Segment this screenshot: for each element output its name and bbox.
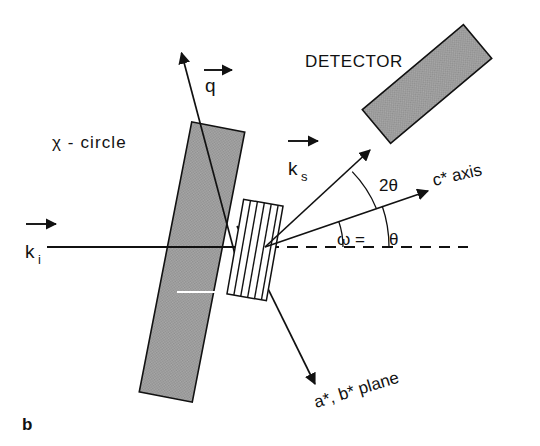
k-i-subscript: i (38, 252, 41, 267)
theta-label: θ (389, 230, 398, 249)
ab-plane-label: a*, b* plane (312, 368, 402, 412)
chi-circle-label: χ - circle (52, 133, 127, 152)
theta-angle-arc (382, 206, 389, 247)
chi-circle-bar-shape (139, 122, 244, 402)
detector-bar-shape (362, 25, 491, 144)
omega-label: ω = (337, 230, 365, 249)
scattering-geometry-diagram: DETECTOR χ - circle k i k s q 2θ ω = θ c… (0, 0, 540, 446)
chi-circle-bar (139, 122, 244, 402)
k-i-label: k (25, 241, 35, 262)
q-label: q (205, 75, 216, 96)
figure-panel-b: DETECTOR χ - circle k i k s q 2θ ω = θ c… (0, 0, 540, 446)
panel-label: b (22, 415, 32, 434)
sample-crystal (227, 199, 283, 300)
k-s-subscript: s (301, 169, 308, 184)
two-theta-label: 2θ (379, 176, 398, 195)
two-theta-angle-arc (352, 172, 376, 209)
detector-bar (362, 25, 491, 144)
c-star-axis-label: c* axis (431, 160, 484, 190)
k-s-label: k (288, 158, 298, 179)
detector-label: DETECTOR (305, 52, 403, 71)
